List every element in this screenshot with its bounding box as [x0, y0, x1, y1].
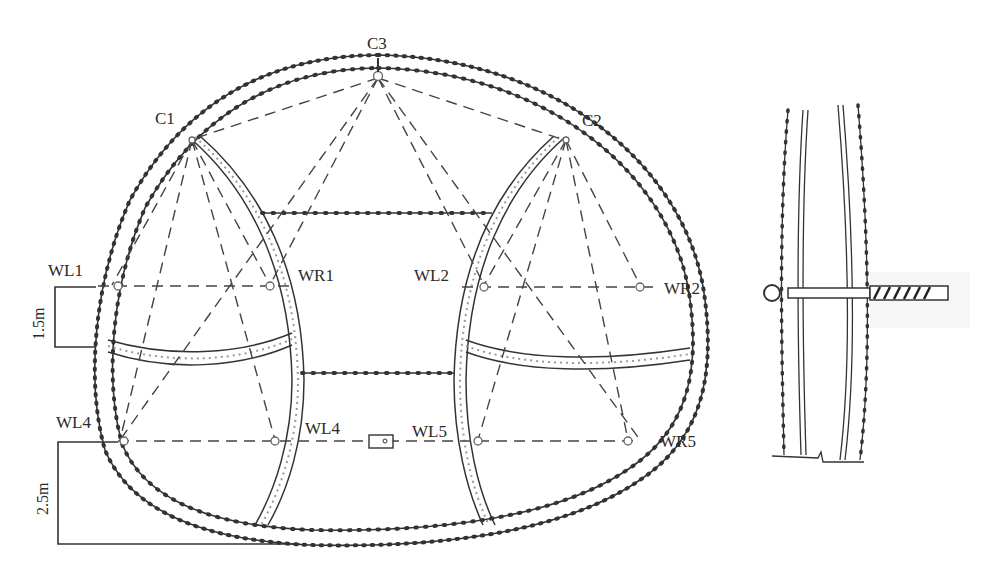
point-C2 [563, 137, 569, 143]
label-C1: C1 [155, 110, 175, 127]
anchor-detail [764, 105, 970, 462]
point-C3 [374, 72, 383, 81]
dimension-1.5m: 1.5m [30, 308, 48, 340]
label-WL5: WL5 [412, 423, 447, 440]
label-WL1: WL1 [48, 262, 83, 279]
measurement-lines [98, 78, 655, 441]
tunnel-section-diagram [0, 0, 992, 581]
label-WR2: WR2 [664, 280, 700, 297]
monitoring-points [114, 58, 644, 445]
eye-hook [764, 285, 780, 301]
center-instrument-box [369, 435, 393, 448]
label-WL2: WL2 [414, 267, 449, 284]
label-C3: C3 [367, 35, 387, 52]
point-WR2 [636, 283, 644, 291]
point-WL2 [480, 283, 488, 291]
point-WR1 [266, 282, 274, 290]
right-temporary-arch [454, 136, 564, 525]
point-WL4a [120, 437, 128, 445]
bolt-shaft [788, 288, 870, 298]
outer-lining [95, 55, 708, 545]
label-WR5: WR5 [660, 433, 696, 450]
dimension-brackets [55, 287, 300, 544]
point-WL1 [114, 282, 122, 290]
label-WL4-right: WL4 [305, 420, 340, 437]
label-WL4-left: WL4 [56, 414, 91, 431]
point-WR5 [624, 437, 632, 445]
temporary-inverts [108, 333, 690, 369]
point-WL4b [271, 437, 279, 445]
label-WR1: WR1 [298, 267, 334, 284]
dimension-2.5m: 2.5m [34, 483, 52, 515]
point-WL5 [474, 437, 482, 445]
point-C1 [189, 137, 195, 143]
label-C2: C2 [582, 112, 602, 129]
